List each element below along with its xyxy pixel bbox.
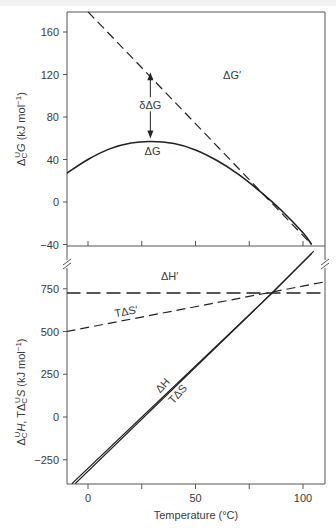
arrow-head-up <box>147 72 153 80</box>
top-ylabel-unit: (kJ mol <box>15 105 27 144</box>
series-ΔH <box>72 254 312 484</box>
svg-text:ΔCUG (kJ mol−1): ΔCUG (kJ mol−1) <box>13 92 29 166</box>
axis-break-left <box>63 259 71 269</box>
y-tick-label: 500 <box>41 326 59 338</box>
bottom-y-axis-title: ΔCUH, TΔCUS (kJ mol−1) <box>13 338 29 445</box>
series-TΔS′ <box>67 282 325 332</box>
y-tick-label: −40 <box>40 239 59 251</box>
top-ylabel-close: ) <box>15 92 27 96</box>
series-TΔS <box>75 251 314 484</box>
top-y-ticks: 16012080400−40 <box>40 26 67 251</box>
svg-text:ΔCUH, TΔCUS (kJ mol−1): ΔCUH, TΔCUS (kJ mol−1) <box>13 338 29 445</box>
x-tick-label: 100 <box>294 492 312 504</box>
series <box>67 12 325 484</box>
y-tick-label: 250 <box>41 368 59 380</box>
top-y-axis-title: ΔCUG (kJ mol−1) <box>13 92 29 166</box>
plot-frame <box>63 12 329 484</box>
bottom-y-ticks: 7505002500−250 <box>34 283 67 466</box>
y-tick-label: −250 <box>34 454 59 466</box>
y-tick-label: 0 <box>53 196 59 208</box>
y-tick-label: 120 <box>41 69 59 81</box>
x-ticks: 050100 <box>85 241 312 504</box>
annotation-label: δΔG <box>139 99 161 111</box>
annotations: δΔGΔG′ΔGΔH′TΔS′ΔHTΔS <box>113 69 241 406</box>
x-axis-title: Temperature (°C) <box>154 509 238 521</box>
annotation-label: ΔG′ <box>223 69 241 81</box>
annotation-label: ΔH′ <box>161 270 178 282</box>
y-tick-label: 750 <box>41 283 59 295</box>
y-tick-label: 160 <box>41 26 59 38</box>
annotation-label: ΔG <box>145 145 161 157</box>
delta-delta-g-arrow: δΔG <box>132 72 168 138</box>
y-tick-label: 40 <box>47 154 59 166</box>
series-ΔG <box>67 141 312 244</box>
axis-break-right <box>321 259 329 269</box>
y-tick-label: 80 <box>47 111 59 123</box>
x-tick-label: 50 <box>189 492 201 504</box>
annotation-label: TΔS′ <box>113 303 138 319</box>
x-tick-label: 0 <box>85 492 91 504</box>
series-ΔG′ <box>88 12 312 245</box>
arrow-head-down <box>147 130 153 138</box>
y-tick-label: 0 <box>53 411 59 423</box>
thermodynamics-chart: 16012080400−40 7505002500−250 050100 δΔG… <box>0 0 336 530</box>
